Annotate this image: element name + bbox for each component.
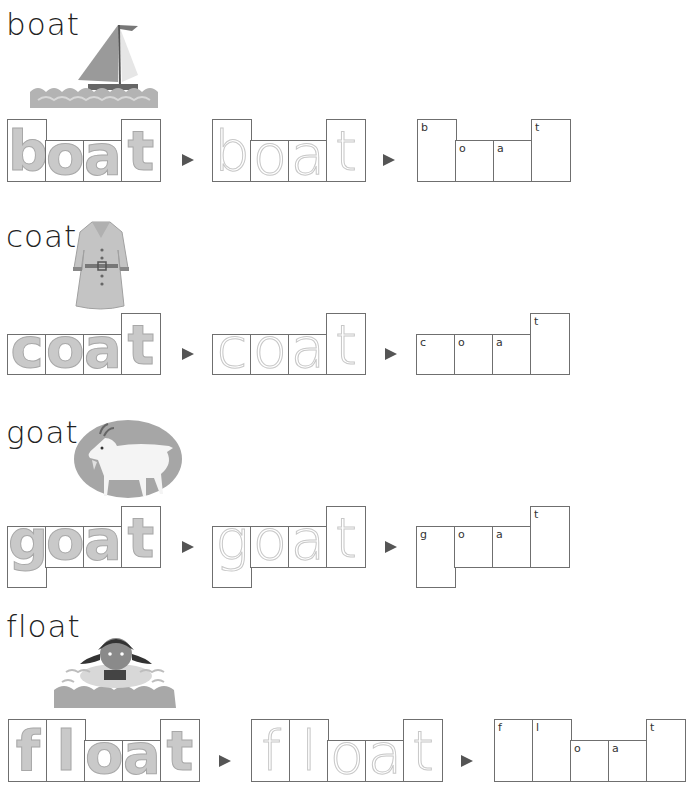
letter-box-solid: o [45,334,85,375]
letter-box-blank[interactable]: l [532,719,572,782]
letter-box-dotted[interactable]: f [251,719,291,782]
coat-icon [68,220,134,310]
letter-box-dotted[interactable]: o [250,334,290,375]
letter-box-dotted[interactable]: t [326,313,366,375]
letter-box-solid: a [83,526,123,568]
letter-box-solid: o [84,740,124,782]
letter-box-solid: g [7,526,47,588]
letter-box-solid: l [46,719,86,782]
letter-box-solid: b [7,119,47,182]
letter-box-solid: a [83,140,123,182]
letter-box-blank[interactable]: o [454,526,494,568]
letter-box-dotted[interactable]: c [212,334,252,375]
arrow-icon [182,348,194,360]
letter-box-dotted[interactable]: b [212,119,252,182]
letter-box-dotted[interactable]: t [326,506,366,568]
letter-box-blank[interactable]: o [570,740,610,782]
sailboat-icon [28,20,158,108]
arrow-icon [385,541,397,553]
word-title-goat: goat [6,414,79,450]
goat-icon [72,418,184,500]
arrow-icon [182,154,194,166]
letter-box-blank[interactable]: f [494,719,534,782]
arrow-icon [383,154,395,166]
letter-box-dotted[interactable]: o [250,140,290,182]
arrow-icon [182,541,194,553]
arrow-icon [461,755,473,767]
letter-box-dotted[interactable]: a [288,526,328,568]
letter-box-blank[interactable]: o [454,334,494,375]
letter-box-dotted[interactable]: t [403,719,443,782]
letter-box-solid: f [8,719,48,782]
girl-floating-icon [52,632,176,708]
letter-box-dotted[interactable]: t [326,119,366,182]
letter-box-solid: t [121,313,161,375]
letter-box-blank[interactable]: a [492,526,532,568]
letter-box-solid: o [45,526,85,568]
letter-box-dotted[interactable]: g [212,526,252,588]
letter-box-solid: c [7,334,47,375]
arrow-icon [385,348,397,360]
letter-box-dotted[interactable]: l [289,719,329,782]
letter-box-blank[interactable]: a [493,140,533,182]
arrow-icon [219,755,231,767]
letter-box-blank[interactable]: t [530,506,570,568]
letter-box-blank[interactable]: a [608,740,648,782]
letter-box-dotted[interactable]: o [327,740,367,782]
letter-box-solid: t [121,506,161,568]
letter-box-solid: a [122,740,162,782]
letter-box-blank[interactable]: o [455,140,495,182]
letter-box-dotted[interactable]: a [365,740,405,782]
letter-box-blank[interactable]: b [417,119,457,182]
letter-box-dotted[interactable]: a [288,334,328,375]
letter-box-blank[interactable]: t [530,313,570,375]
letter-box-solid: o [45,140,85,182]
letter-box-blank[interactable]: g [416,526,456,588]
letter-box-solid: a [83,334,123,375]
letter-box-blank[interactable]: a [492,334,532,375]
letter-box-blank[interactable]: t [646,719,686,782]
letter-box-solid: t [121,119,161,182]
letter-box-blank[interactable]: t [531,119,571,182]
word-title-coat: coat [6,218,77,254]
letter-box-blank[interactable]: c [416,334,456,375]
letter-box-dotted[interactable]: o [250,526,290,568]
letter-box-solid: t [160,719,200,782]
letter-box-dotted[interactable]: a [288,140,328,182]
